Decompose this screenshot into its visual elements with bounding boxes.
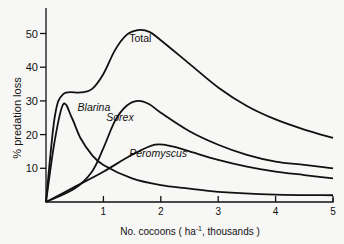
y-tick-label: 40 bbox=[26, 61, 38, 73]
x-tick-label: 1 bbox=[101, 206, 107, 217]
y-axis-label: % predation loss bbox=[11, 77, 23, 159]
curves bbox=[46, 30, 333, 202]
x-tick-label: 4 bbox=[273, 206, 279, 217]
curve-blarina bbox=[46, 103, 333, 202]
curve-peromyscus bbox=[46, 144, 333, 202]
y-tick-label: 50 bbox=[26, 28, 38, 40]
x-tick-label: 5 bbox=[330, 206, 336, 217]
label-peromyscus: Peromyscus bbox=[129, 147, 188, 159]
y-tick-label: 30 bbox=[26, 95, 38, 107]
x-axis-label: No. cocoons ( ha-1, thousands ) bbox=[120, 225, 260, 237]
series-labels: TotalBlarinaSorexPeromyscus bbox=[78, 32, 188, 159]
x-tick-label: 3 bbox=[215, 206, 221, 217]
y-tick-label: 10 bbox=[26, 162, 38, 174]
label-sorex: Sorex bbox=[106, 111, 134, 123]
label-total: Total bbox=[129, 32, 151, 44]
x-tick-label: 2 bbox=[158, 206, 164, 217]
y-tick-label: 20 bbox=[26, 129, 38, 141]
predation-loss-chart: 102030405012345 TotalBlarinaSorexPeromys… bbox=[0, 0, 344, 244]
